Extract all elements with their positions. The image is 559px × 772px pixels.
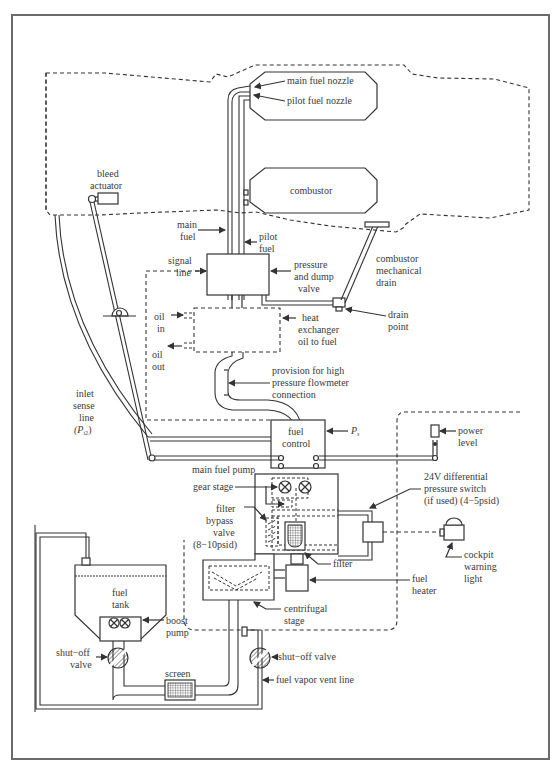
oil-in-label-1: oil (154, 311, 165, 322)
signal-line-label-2: line (176, 267, 192, 278)
combustor-drain-label-1: combustor (376, 253, 419, 264)
pilot-fuel-nozzle-label: pilot fuel nozzle (287, 95, 353, 106)
cockpit-label-1: cockpit (464, 549, 494, 560)
pressure-dump-label-1: pressure (294, 259, 328, 270)
filter-bypass-label-1: filter (216, 503, 236, 514)
filter-bypass-label-3: valve (213, 527, 235, 538)
shutoff-left-label-1: shut−off (56, 647, 90, 658)
differential-pressure-switch (338, 511, 440, 560)
diff-switch-label-3: (if used) (4−5psid) (424, 495, 499, 507)
pilot-fuel-label-2: fuel (259, 243, 275, 254)
screen (165, 680, 195, 700)
cockpit-label-3: light (464, 573, 483, 584)
centrifugal-stage (203, 554, 285, 600)
drain-point-label-2: point (388, 321, 409, 332)
filter (285, 522, 305, 550)
shut-off-valve-left (108, 648, 128, 668)
cockpit-warning-light (440, 518, 464, 540)
inlet-sense-label-2: sense (73, 400, 95, 411)
ps-label: Ps (350, 425, 360, 437)
shutoff-right-label: shut−off valve (278, 651, 337, 662)
gear-stage-label: gear stage (193, 481, 234, 492)
pressure-dump-label-2: and dump (294, 271, 334, 282)
combustor-drain-label-2: mechanical (376, 265, 422, 276)
drain-point-label-1: drain (388, 309, 409, 320)
boost-pump-label-2: pump (166, 627, 189, 638)
fuel-heater (286, 554, 308, 591)
oil-out-label-1: oil (152, 349, 163, 360)
fuel-heater-label-2: heater (412, 585, 437, 596)
main-fuel-nozzle-label: main fuel nozzle (287, 75, 354, 86)
filter-bypass-label-4: (8−10psid) (193, 539, 237, 551)
fuel-heater-label-1: fuel (412, 573, 428, 584)
power-level-label-1: power (458, 425, 484, 436)
main-fuel-label-2: fuel (180, 231, 196, 242)
bleed-label-1: bleed (97, 168, 119, 179)
centrifugal-label-1: centrifugal (284, 603, 328, 614)
power-level-label-2: level (458, 437, 478, 448)
shutoff-left-label-2: valve (70, 659, 92, 670)
shut-off-valve-right (250, 648, 270, 668)
signal-line-label-1: signal (168, 255, 192, 266)
screen-label: screen (165, 668, 191, 679)
heat-exchanger (184, 295, 280, 352)
heat-exchanger-label-1: heat (302, 312, 319, 323)
vent-line-label: fuel vapor vent line (276, 674, 355, 685)
fuel-system-diagram: combustor main fuel nozzle pilot fuel no… (0, 0, 559, 772)
oil-in-label-2: in (157, 323, 165, 334)
combustor-label: combustor (290, 185, 333, 196)
flowmeter-label-1: provision for high (272, 365, 344, 376)
bleed-actuator (89, 193, 119, 204)
bleed-label-2: actuator (90, 180, 123, 191)
centrifugal-label-2: stage (284, 615, 305, 626)
combustor: combustor (250, 168, 377, 213)
combustor-drain-label-3: drain (376, 277, 397, 288)
filter-bypass-label-2: bypass (206, 515, 233, 526)
inlet-sense-label-4: (Pt2) (74, 424, 91, 436)
bleed-linkage-rod (90, 202, 152, 460)
diff-switch-label-2: pressure switch (424, 483, 486, 494)
pressure-dump-label-3: valve (298, 283, 320, 294)
pilot-fuel-label-1: pilot (259, 231, 278, 242)
heat-exchanger-label-3: oil to fuel (298, 336, 337, 347)
boost-pump (100, 617, 141, 641)
flowmeter-label-2: pressure flowmeter (272, 377, 350, 388)
inlet-sense-label-1: inlet (76, 388, 94, 399)
cockpit-label-2: warning (464, 561, 497, 572)
fuel-tank-label-1: fuel (112, 587, 128, 598)
pressure-dump-valve (207, 254, 269, 295)
main-fuel-pump-label: main fuel pump (192, 464, 255, 475)
fuel-control-label-1: fuel (288, 426, 304, 437)
main-fuel-label-1: main (177, 219, 197, 230)
inlet-sense-label-3: line (79, 412, 95, 423)
heat-exchanger-label-2: exchanger (298, 324, 340, 335)
fuel-tank-label-2: tank (112, 599, 129, 610)
oil-out-label-2: out (152, 361, 165, 372)
flowmeter-label-3: connection (272, 389, 316, 400)
fuel-control-label-2: control (282, 438, 311, 449)
diff-switch-label-1: 24V differential (424, 471, 488, 482)
boost-pump-label-1: boost (166, 615, 188, 626)
